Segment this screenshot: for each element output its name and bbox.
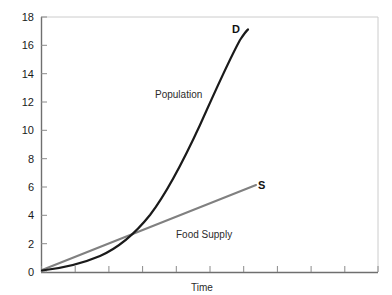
population-endpoint-label-d: D <box>232 23 240 35</box>
y-tick-label: 8 <box>28 153 34 165</box>
x-axis-title: Time <box>191 282 213 293</box>
food-supply-series-label: Food Supply <box>176 229 232 240</box>
chart-background <box>0 0 392 295</box>
chart-screenshot: 18 16 14 12 10 8 6 4 2 0 <box>0 0 392 295</box>
food-supply-endpoint-label-s: S <box>258 179 265 191</box>
population-series-label: Population <box>155 89 202 100</box>
y-tick-label: 10 <box>22 124 34 136</box>
y-tick-label: 0 <box>28 266 34 278</box>
malthusian-growth-chart: 18 16 14 12 10 8 6 4 2 0 <box>0 0 392 295</box>
y-tick-label: 18 <box>22 11 34 23</box>
y-tick-label: 2 <box>28 238 34 250</box>
y-tick-label: 14 <box>22 68 34 80</box>
y-tick-label: 16 <box>22 39 34 51</box>
y-tick-label: 12 <box>22 96 34 108</box>
y-tick-label: 6 <box>28 181 34 193</box>
y-tick-label: 4 <box>28 209 34 221</box>
